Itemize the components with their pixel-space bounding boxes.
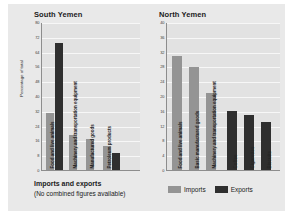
bar-petroleum-products-exports — [112, 153, 120, 170]
y-tick-36: 36 — [160, 36, 164, 40]
figure-container: South Yemen North Yemen Percentage of to… — [8, 4, 285, 211]
y-axis-south: 08162432404856647280 — [30, 23, 41, 171]
legend-item-imports: Imports — [168, 186, 206, 193]
bar-category-label-coffee: Coffee — [233, 154, 238, 168]
y-tick-0: 0 — [37, 169, 39, 173]
y-axis-label: Percentage of total — [19, 44, 24, 114]
bar-machinery-and-transportation-equipment-imports: Machinery and transportation equipment — [69, 135, 77, 170]
bar-group-north: Food and live animalsBasic manufactured … — [167, 23, 280, 170]
x-axis-line-north — [167, 170, 280, 171]
legend-label-exports: Exports — [231, 186, 253, 193]
bar-category-label-machinery-and-transportation-equipment: Machinery and transportation equipment — [73, 81, 78, 168]
legend-item-exports: Exports — [215, 186, 253, 193]
bar-machinery-and-transportation-equipment-imports: Machinery and transportation equipment — [206, 93, 216, 170]
y-tick-28: 28 — [160, 65, 164, 69]
y-tick-4: 4 — [162, 154, 164, 158]
caption-title: Imports and exports — [34, 180, 164, 189]
y-tick-48: 48 — [35, 80, 39, 84]
legend-swatch-imports-icon — [168, 186, 181, 193]
bar-manufactured-goods-imports: Manufactured goods — [86, 139, 94, 170]
bar-biscuits-exports: Biscuits — [261, 122, 271, 170]
y-tick-8: 8 — [162, 139, 164, 143]
y-tick-40: 40 — [160, 21, 164, 25]
bar-petroleum-products-imports: Petroleum products — [103, 146, 111, 170]
bar-category-label-biscuits: Biscuits — [267, 150, 272, 168]
bar-food-and-live-animals-imports: Food and live animals — [46, 113, 54, 170]
bar-food-and-live-animals-exports — [55, 43, 63, 170]
y-tick-20: 20 — [160, 95, 164, 99]
figure-caption: Imports and exports (No combined figures… — [34, 180, 164, 198]
bar-category-label-manufactured-goods: Manufactured goods — [90, 124, 95, 168]
y-tick-72: 72 — [35, 36, 39, 40]
chart-title-south-yemen: South Yemen — [34, 10, 82, 19]
bar-category-label-machinery-and-transportation-equipment: Machinery and transportation equipment — [212, 81, 217, 168]
y-tick-32: 32 — [160, 51, 164, 55]
chart-panel-south-yemen: 08162432404856647280 Food and live anima… — [30, 23, 140, 171]
caption-note: (No combined figures available) — [34, 190, 164, 198]
y-tick-12: 12 — [160, 125, 164, 129]
y-tick-80: 80 — [35, 21, 39, 25]
bar-category-label-food-and-live-animals: Food and live animals — [178, 121, 183, 168]
y-tick-24: 24 — [35, 125, 39, 129]
bar-category-label-basic-manufactured-goods: Basic manufactured goods — [195, 110, 200, 168]
y-axis-north: 0481216202428323640 — [155, 23, 166, 171]
chart-legend: ImportsExports — [168, 186, 253, 193]
bar-category-label-food-and-live-animals: Food and live animals — [50, 121, 55, 168]
bar-basic-manufactured-goods-imports: Basic manufactured goods — [189, 67, 199, 170]
bar-food-and-live-animals-imports: Food and live animals — [172, 56, 182, 170]
bar-coffee-exports: Coffee — [227, 111, 237, 170]
bar-category-label-petroleum-products: Petroleum products — [107, 125, 112, 168]
legend-swatch-exports-icon — [215, 186, 228, 193]
plot-area-south: Food and live animalsMachinery and trans… — [42, 23, 140, 171]
y-tick-8: 8 — [37, 154, 39, 158]
x-axis-line-south — [42, 170, 140, 171]
bar-cigarettes-exports: Cigarettes — [244, 115, 254, 170]
bar-category-label-cigarettes: Cigarettes — [250, 146, 255, 168]
chart-panel-north-yemen: 0481216202428323640 Food and live animal… — [155, 23, 280, 171]
y-tick-0: 0 — [162, 169, 164, 173]
legend-label-imports: Imports — [184, 186, 206, 193]
y-tick-56: 56 — [35, 65, 39, 69]
bar-group-south: Food and live animalsMachinery and trans… — [42, 23, 140, 170]
y-tick-16: 16 — [160, 110, 164, 114]
y-tick-40: 40 — [35, 95, 39, 99]
y-tick-24: 24 — [160, 80, 164, 84]
plot-area-north: Food and live animalsBasic manufactured … — [167, 23, 280, 171]
y-tick-16: 16 — [35, 139, 39, 143]
chart-title-north-yemen: North Yemen — [159, 10, 206, 19]
y-tick-32: 32 — [35, 110, 39, 114]
y-tick-64: 64 — [35, 51, 39, 55]
